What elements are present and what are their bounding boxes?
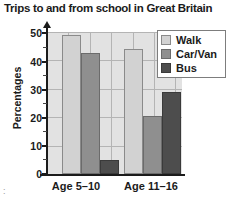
y-axis-arrow-icon	[43, 21, 51, 28]
legend-item-carvan: Car/Van	[161, 47, 225, 61]
y-tick-30	[42, 89, 47, 91]
y-tick-minor-15	[43, 131, 47, 132]
bar-bus-age-11-16	[162, 92, 181, 174]
bar-carvan-age-5-10	[81, 53, 100, 174]
x-group-label-age-11-16: Age 11–16	[113, 180, 189, 192]
walk-swatch-icon	[161, 35, 171, 45]
bus-swatch-icon	[161, 63, 171, 73]
y-tick-minor-25	[43, 103, 47, 104]
legend-label-bus: Bus	[176, 62, 197, 74]
carvan-swatch-icon	[161, 49, 171, 59]
y-axis-title: Percentages	[11, 50, 23, 146]
y-tick-0	[42, 173, 47, 175]
y-tick-label-0: 0	[16, 169, 42, 179]
legend-label-walk: Walk	[176, 34, 201, 46]
y-tick-label-50: 50	[16, 28, 42, 38]
legend-label-carvan: Car/Van	[176, 48, 217, 60]
legend-item-bus: Bus	[161, 61, 225, 75]
y-tick-10	[42, 145, 47, 147]
y-tick-minor-5	[43, 159, 47, 160]
bar-walk-age-11-16	[124, 49, 143, 174]
y-tick-40	[42, 61, 47, 63]
y-tick-20	[42, 117, 47, 119]
x-group-label-age-5-10: Age 5–10	[40, 180, 112, 192]
y-tick-50	[42, 32, 47, 34]
bar-carvan-age-11-16	[143, 116, 162, 174]
bar-bus-age-5-10	[100, 160, 119, 174]
legend: Walk Car/Van Bus	[157, 30, 226, 78]
y-tick-minor-45	[43, 47, 47, 48]
y-axis-line	[46, 27, 48, 175]
y-tick-minor-35	[43, 75, 47, 76]
legend-item-walk: Walk	[161, 33, 225, 47]
bar-chart-figure: Trips to and from school in Great Britai…	[0, 0, 226, 204]
bar-walk-age-5-10	[62, 35, 81, 174]
margin-artifact: :	[3, 186, 6, 196]
gridline-vertical	[111, 32, 112, 174]
x-axis-line	[40, 174, 185, 176]
